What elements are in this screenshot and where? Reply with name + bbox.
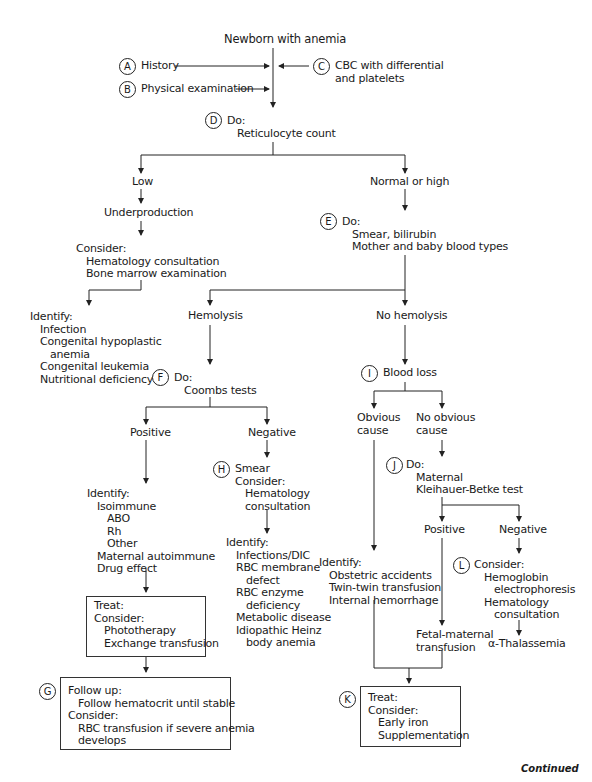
node-coombs-positive: Positive: [130, 427, 171, 440]
node-identify-negative: Identify: Infections/DIC RBC membrane de…: [226, 537, 331, 650]
step-l-badge: L: [453, 557, 470, 574]
node-no-hemolysis: No hemolysis: [376, 310, 447, 323]
step-h-smear: Smear Consider: Hematology consultation: [235, 463, 310, 513]
step-f-coombs: Do:Coombs tests: [174, 372, 257, 397]
node-obvious-cause: Obviouscause: [357, 412, 400, 437]
node-hemolysis: Hemolysis: [188, 310, 243, 323]
step-c-badge: C: [313, 58, 330, 75]
node-identify-positive: Identify: Isoimmune ABO Rh Other Materna…: [87, 488, 215, 576]
step-a-history: History: [141, 60, 179, 73]
step-b-physical-exam: Physical examination: [141, 83, 254, 96]
node-fetal-maternal-transfusion: Fetal-maternaltransfusion: [416, 629, 493, 654]
step-d-badge: D: [205, 112, 222, 129]
step-d-reticulocyte: Do:Reticulocyte count: [227, 115, 336, 140]
node-kb-negative: Negative: [499, 524, 547, 537]
step-a-badge: A: [119, 58, 136, 75]
step-e-badge: E: [320, 213, 337, 230]
node-no-obvious-cause: No obviouscause: [416, 412, 475, 437]
step-j-badge: J: [386, 457, 403, 474]
step-i-blood-loss: Blood loss: [383, 367, 437, 380]
node-identify-underproduction: Identify: Infection Congenital hypoplast…: [30, 311, 162, 386]
node-consider-underproduction: Consider: Hematology consultation Bone m…: [76, 243, 227, 281]
step-k-treat: Treat: Consider: Early iron Supplementat…: [368, 692, 469, 742]
node-low: Low: [132, 176, 153, 189]
title-newborn-anemia: Newborn with anemia: [224, 33, 346, 46]
step-k-badge: K: [339, 691, 356, 708]
node-normal-or-high: Normal or high: [370, 176, 449, 189]
step-f-badge: F: [152, 369, 169, 386]
node-coombs-negative: Negative: [248, 427, 296, 440]
step-h-badge: H: [213, 461, 230, 478]
node-treat-positive: Treat: Consider: Phototherapy Exchange t…: [94, 600, 219, 650]
node-kb-positive: Positive: [424, 524, 465, 537]
step-g-follow-up: Follow up: Follow hematocrit until stabl…: [68, 685, 255, 748]
step-b-badge: B: [119, 81, 136, 98]
continued-label: Continued: [521, 763, 579, 774]
node-underproduction: Underproduction: [104, 207, 193, 220]
node-alpha-thalassemia: α-Thalassemia: [488, 638, 566, 651]
step-i-badge: I: [361, 365, 378, 382]
step-l-consider: Consider: Hemoglobin electrophoresis Hem…: [474, 559, 575, 622]
step-j-kleihauer-betke: Do: Maternal Kleihauer-Betke test: [406, 459, 523, 497]
step-e-smear-bilirubin: Do: Smear, bilirubin Mother and baby blo…: [342, 216, 508, 254]
node-identify-obvious: Identify: Obstetric accidents Twin-twin …: [319, 557, 441, 607]
step-g-badge: G: [39, 683, 56, 700]
step-c-cbc: CBC with differentialand platelets: [335, 60, 444, 85]
